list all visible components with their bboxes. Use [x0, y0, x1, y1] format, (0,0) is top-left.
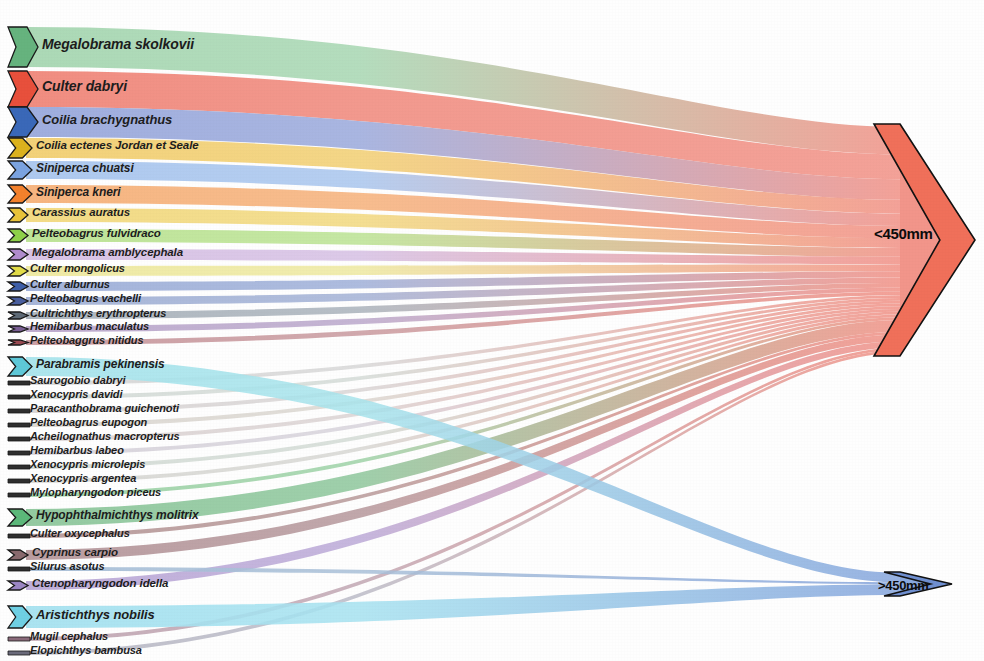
source-node-17[interactable] [8, 395, 30, 399]
source-node-27[interactable] [8, 550, 28, 560]
source-node-14[interactable] [8, 340, 28, 345]
target-label-lt450: <450mm [874, 225, 933, 242]
source-node-28[interactable] [8, 567, 30, 571]
source-node-19[interactable] [8, 423, 30, 427]
source-node-10[interactable] [8, 282, 28, 291]
source-node-18[interactable] [8, 409, 30, 413]
source-node-20[interactable] [8, 437, 30, 441]
source-node-24[interactable] [8, 493, 30, 497]
source-node-29[interactable] [8, 581, 28, 590]
source-node-9[interactable] [8, 266, 28, 276]
sankey-figure: Megalobrama skolkoviiCulter dabryiCoilia… [0, 0, 984, 661]
source-node-31[interactable] [8, 637, 30, 641]
source-node-6[interactable] [8, 208, 28, 222]
source-node-32[interactable] [8, 651, 30, 655]
source-node-12[interactable] [8, 312, 28, 319]
source-node-21[interactable] [8, 451, 30, 455]
flow-links-group [26, 27, 900, 655]
source-node-22[interactable] [8, 465, 30, 469]
source-node-8[interactable] [8, 249, 28, 260]
target-label-gt450: >450mm [878, 578, 929, 593]
sankey-canvas [0, 0, 984, 661]
source-node-11[interactable] [8, 297, 28, 305]
source-node-7[interactable] [8, 229, 28, 242]
sankey-flow [26, 584, 900, 628]
source-node-16[interactable] [8, 381, 30, 385]
source-node-13[interactable] [8, 326, 28, 332]
source-node-26[interactable] [8, 534, 30, 538]
source-node-23[interactable] [8, 479, 30, 483]
